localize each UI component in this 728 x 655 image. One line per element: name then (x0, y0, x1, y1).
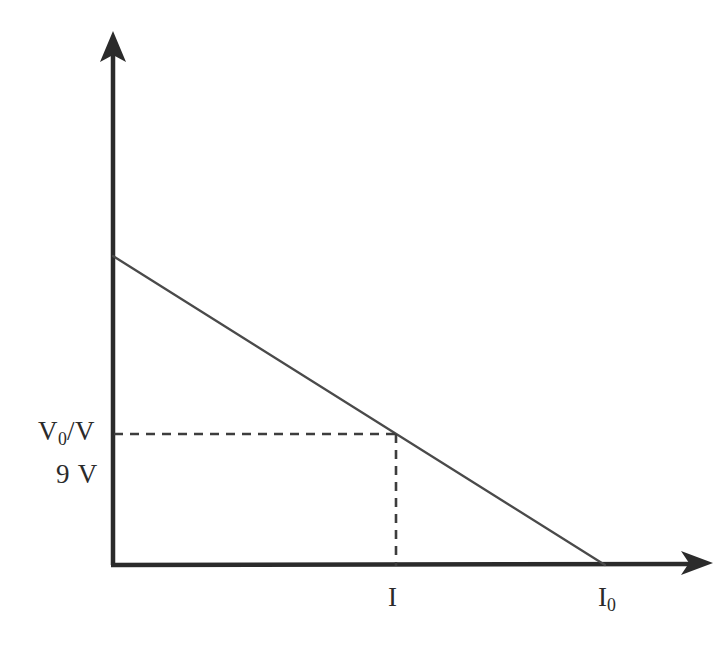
y-axis-label-v0-over-v-main: V (38, 416, 58, 446)
x-axis-label-current-i: I (388, 584, 397, 611)
characteristic-line (113, 256, 605, 565)
physics-vi-characteristic-figure: V0/V 9 V I I0 (0, 0, 728, 655)
x-axis-label-current-i0: I0 (598, 584, 616, 615)
plot-canvas (0, 0, 728, 655)
x-axis-label-current-i0-subscript: 0 (607, 595, 616, 615)
x-axis-label-current-i0-main: I (598, 582, 607, 612)
y-axis-label-v0-over-v-tail: /V (67, 416, 95, 446)
y-axis-label-nine-volts: 9 V (56, 461, 98, 488)
y-axis-label-v0-over-v-subscript: 0 (58, 429, 67, 449)
x-axis-line (111, 564, 700, 565)
y-axis-label-v0-over-v: V0/V (38, 418, 95, 449)
